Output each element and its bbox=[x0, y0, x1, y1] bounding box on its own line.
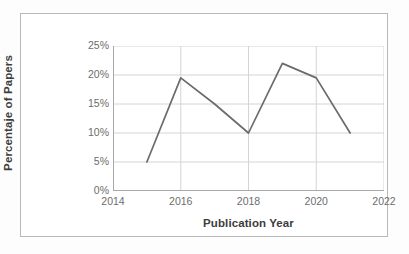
y-axis-tick-labels: 25%20%15%10%5%0% bbox=[73, 46, 109, 191]
x-axis-tick-label: 2018 bbox=[227, 196, 271, 207]
y-axis-tick-label: 5% bbox=[75, 156, 109, 167]
x-axis-tick-label: 2016 bbox=[159, 196, 203, 207]
x-axis-tick-label: 2014 bbox=[91, 196, 135, 207]
y-axis-tick-label: 15% bbox=[75, 98, 109, 109]
line-chart-svg bbox=[113, 46, 384, 191]
y-axis-tick-label: 0% bbox=[75, 185, 109, 196]
x-axis-title: Publication Year bbox=[113, 217, 384, 229]
x-axis-tick-label: 2020 bbox=[294, 196, 338, 207]
x-axis-tick-labels: 20142016201820202022 bbox=[113, 196, 384, 212]
chart-frame: Percentaje of Papers 25%20%15%10%5%0% 20… bbox=[20, 13, 388, 237]
y-axis-tick-label: 25% bbox=[75, 40, 109, 51]
chart-figure: Percentaje of Papers 25%20%15%10%5%0% 20… bbox=[0, 0, 409, 254]
x-axis-tick-label: 2022 bbox=[362, 196, 406, 207]
grid-lines bbox=[113, 46, 384, 191]
plot-area bbox=[113, 46, 384, 191]
y-axis-tick-label: 20% bbox=[75, 69, 109, 80]
y-axis-title: Percentaje of Papers bbox=[2, 38, 14, 188]
y-axis-tick-label: 10% bbox=[75, 127, 109, 138]
